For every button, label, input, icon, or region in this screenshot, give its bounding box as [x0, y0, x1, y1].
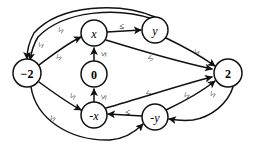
edge-label: ≤ — [34, 40, 45, 49]
edge-label: ≤ — [53, 52, 64, 62]
node-minus2[interactable]: −2 — [13, 59, 41, 87]
edge-label: ≤ — [120, 21, 125, 31]
node-label: -x — [89, 109, 99, 123]
node-x[interactable]: x — [81, 20, 107, 46]
node-label: x — [90, 27, 97, 41]
node-negy[interactable]: -y — [142, 104, 168, 130]
edge-label: ≤ — [46, 113, 57, 123]
edge-label: ≤ — [98, 51, 109, 58]
edge-label: ≤ — [190, 47, 201, 56]
edge-negx-to-two — [106, 77, 212, 108]
edge-label: ≤ — [98, 94, 109, 101]
node-label: y — [151, 24, 158, 38]
edge-label-layer: ≤ ≤ ≤ ≤ ≤ ≤ ≤ ≤ ≤ ≤ ≤ ≤ ≤ ≤ — [34, 21, 217, 123]
node-y[interactable]: y — [142, 17, 168, 43]
node-negx[interactable]: -x — [81, 102, 107, 128]
node-label: 2 — [225, 67, 231, 81]
edge-label: ≤ — [54, 25, 65, 35]
node-label: 0 — [91, 68, 97, 82]
node-label: −2 — [21, 67, 34, 81]
edge-label: ≤ — [66, 91, 77, 101]
diagram-canvas: ≤ ≤ ≤ ≤ ≤ ≤ ≤ ≤ ≤ ≤ ≤ ≤ ≤ ≤ −2 x — [0, 0, 254, 151]
node-two[interactable]: 2 — [214, 59, 242, 87]
node-zero[interactable]: 0 — [81, 61, 107, 87]
edge-label: ≤ — [181, 90, 192, 100]
constraint-graph: ≤ ≤ ≤ ≤ ≤ ≤ ≤ ≤ ≤ ≤ ≤ ≤ ≤ ≤ −2 x — [0, 0, 254, 151]
node-label: -y — [150, 111, 160, 125]
edge-label: ≤ — [126, 107, 131, 117]
edge-label: ≤ — [206, 89, 217, 99]
